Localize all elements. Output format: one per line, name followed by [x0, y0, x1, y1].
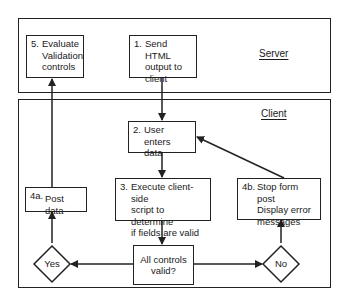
step-2-user-enters-data: 2. User enters data — [128, 121, 196, 153]
step-5-number: 5. — [31, 38, 39, 50]
step-2-text: User enters data — [133, 124, 191, 159]
step-3-number: 3. — [120, 181, 128, 193]
step-2-number: 2. — [133, 124, 141, 136]
no-label: No — [263, 258, 299, 270]
decision-all-controls-valid: All controls valid? — [133, 245, 194, 285]
step-3-text: Execute client-side script to determine … — [120, 181, 206, 239]
step-4a-number: 4a. — [30, 190, 43, 202]
step-4a-post-data: 4a. Post data — [25, 187, 87, 212]
step-4b-stop-form-post: 4b. Stop form post Display error message… — [237, 178, 321, 220]
step-1-number: 1. — [134, 38, 142, 50]
step-1-text: Send HTML output to client — [134, 38, 192, 84]
yes-label: Yes — [34, 258, 70, 270]
step-5-evaluate-validation: 5. Evaluate Validation controls — [26, 35, 84, 78]
step-1-send-html: 1. Send HTML output to client — [129, 35, 197, 78]
decision-text: All controls valid? — [140, 254, 186, 277]
step-4b-number: 4b. — [242, 181, 255, 193]
step-3-execute-script: 3. Execute client-side script to determi… — [115, 178, 211, 221]
